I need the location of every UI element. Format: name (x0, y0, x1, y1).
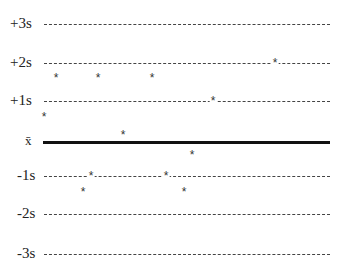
line-plus-1s (44, 101, 330, 102)
data-point: * (54, 72, 59, 84)
data-point: * (150, 72, 155, 84)
data-point: * (96, 72, 101, 84)
data-point: * (163, 170, 170, 182)
data-point: * (81, 186, 86, 198)
label-plus-3s: +3s (10, 16, 32, 31)
data-point: * (121, 129, 126, 141)
line-mean (43, 141, 330, 144)
data-point: * (272, 57, 279, 69)
label-minus-2s: -2s (17, 206, 35, 221)
label-plus-2s: +2s (10, 55, 32, 70)
label-plus-1s: +1s (10, 93, 32, 108)
line-plus-2s (44, 63, 330, 64)
data-point: * (88, 170, 95, 182)
data-point: * (182, 186, 187, 198)
line-minus-2s (44, 214, 330, 215)
line-minus-3s (44, 254, 330, 255)
data-point: * (42, 111, 47, 123)
label-mean: x̄ (25, 133, 32, 148)
label-minus-3s: -3s (17, 246, 35, 261)
line-plus-3s (44, 24, 330, 25)
label-minus-1s: -1s (17, 168, 35, 183)
data-point: * (190, 149, 195, 161)
data-point: * (210, 95, 217, 107)
